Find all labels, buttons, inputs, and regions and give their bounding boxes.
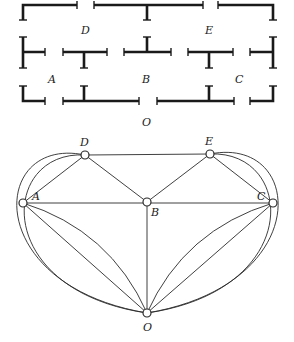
room-label-d: D xyxy=(80,24,90,37)
wall xyxy=(63,86,139,101)
node-b xyxy=(143,198,151,206)
edge-e-o-2 xyxy=(147,154,271,313)
figure: D E A B C O D E xyxy=(0,0,294,342)
room-label-b: B xyxy=(141,73,150,86)
wall xyxy=(124,37,171,52)
wall xyxy=(63,52,107,68)
node-label-a: A xyxy=(31,190,40,203)
room-label-o: O xyxy=(142,116,151,129)
room-label-e: E xyxy=(204,24,213,37)
wall xyxy=(23,5,77,20)
edge-d-o-1 xyxy=(17,153,147,313)
wall xyxy=(94,5,203,20)
node-label-e: E xyxy=(204,135,213,148)
wall xyxy=(250,86,273,101)
node-d xyxy=(81,151,89,159)
wall xyxy=(188,52,233,68)
wall xyxy=(23,86,45,101)
edge-a-o-1 xyxy=(23,203,147,313)
wall xyxy=(250,37,273,68)
room-label-c: C xyxy=(235,73,244,86)
node-e xyxy=(206,150,214,158)
wall xyxy=(218,5,273,20)
room-label-a: A xyxy=(47,73,56,86)
edge-e-o-1 xyxy=(147,152,278,313)
node-a xyxy=(19,199,27,207)
node-o xyxy=(143,309,151,317)
node-label-b: B xyxy=(150,206,159,219)
edge-e-b xyxy=(147,154,210,202)
node-label-o: O xyxy=(143,321,152,334)
node-label-c: C xyxy=(257,190,266,203)
wall xyxy=(23,37,45,68)
edge-d-e xyxy=(85,154,210,155)
node-c xyxy=(269,199,277,207)
edge-d-b xyxy=(85,155,147,202)
graph: D E A B C O xyxy=(17,135,278,334)
floor-plan: D E A B C O xyxy=(19,1,277,129)
wall xyxy=(157,86,234,101)
node-label-d: D xyxy=(79,136,89,149)
